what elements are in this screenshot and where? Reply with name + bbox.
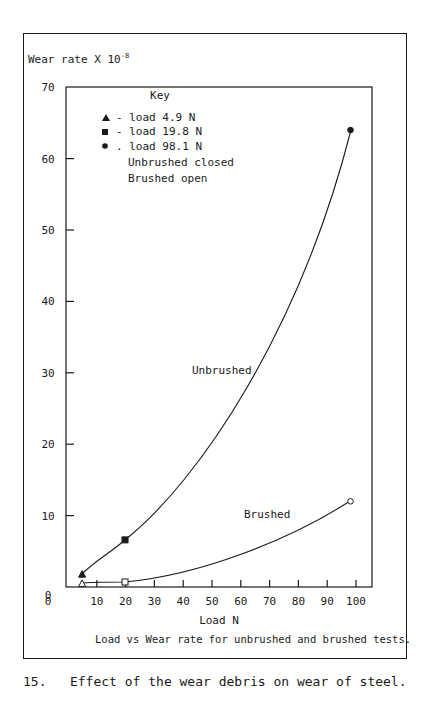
- y-axis: 010203040506070: [41, 81, 74, 602]
- x-axis: 0102030405060708090100: [45, 580, 366, 608]
- y-axis-label: Wear rate X 10-8: [28, 52, 129, 66]
- x-tick-label: 20: [119, 595, 132, 608]
- chart: Wear rate X 10-8 010203040506070 0102030…: [0, 0, 430, 705]
- x-tick-label: 80: [292, 595, 305, 608]
- unbrushed-annotation: Unbrushed: [192, 364, 252, 377]
- square-marker-icon: [122, 537, 128, 543]
- legend-entry: Brushed open: [128, 172, 207, 185]
- x-tick-label: 50: [205, 595, 218, 608]
- x-tick-label: 90: [321, 595, 334, 608]
- chart-subtitle: Load vs Wear rate for unbrushed and brus…: [95, 633, 411, 645]
- triangle-icon: [102, 114, 110, 121]
- legend-title: Key: [150, 89, 170, 102]
- unbrushed-curve: [82, 130, 351, 574]
- x-tick-label: 100: [346, 595, 366, 608]
- x-tick-label: 60: [234, 595, 247, 608]
- square-marker-icon: [122, 579, 128, 585]
- legend: Key - load 4.9 N - load 19.8 N . load 98…: [102, 89, 234, 185]
- square-icon: [102, 129, 108, 135]
- data-markers: [79, 127, 354, 586]
- x-tick-label: 70: [263, 595, 276, 608]
- figure-number: 15.: [23, 674, 46, 689]
- x-tick-label: 40: [177, 595, 190, 608]
- y-tick-label: 50: [41, 224, 54, 237]
- figure-caption-text: Effect of the wear debris on wear of ste…: [70, 674, 407, 689]
- y-tick-label: 20: [41, 438, 54, 451]
- x-tick-label: 30: [148, 595, 161, 608]
- circle-marker-icon: [348, 499, 354, 505]
- circle-icon: [102, 143, 108, 149]
- x-tick-label: 0: [45, 595, 52, 608]
- legend-entry: - load 4.9 N: [116, 111, 195, 124]
- x-axis-label: Load N: [199, 614, 239, 627]
- brushed-annotation: Brushed: [244, 508, 290, 521]
- legend-entry: Unbrushed closed: [128, 156, 234, 169]
- y-tick-label: 40: [41, 295, 54, 308]
- legend-entry: - load 19.8 N: [116, 125, 202, 138]
- x-tick-label: 10: [90, 595, 103, 608]
- y-tick-label: 70: [41, 81, 54, 94]
- circle-marker-icon: [348, 127, 354, 133]
- y-tick-label: 30: [41, 367, 54, 380]
- y-tick-label: 60: [41, 153, 54, 166]
- y-tick-label: 10: [41, 510, 54, 523]
- legend-entry: . load 98.1 N: [116, 140, 202, 153]
- figure-caption: 15. Effect of the wear debris on wear of…: [23, 674, 407, 689]
